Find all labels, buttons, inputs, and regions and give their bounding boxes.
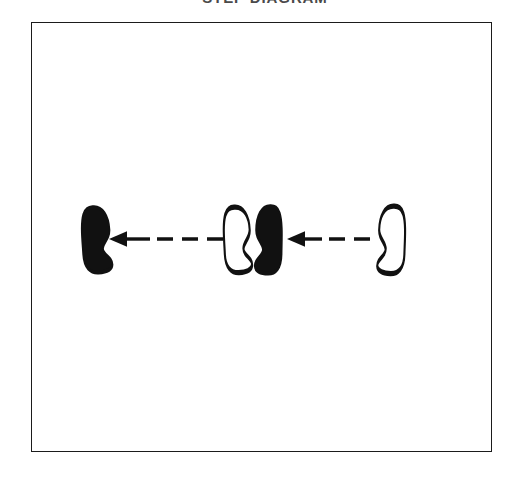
diagram-frame: [31, 22, 492, 452]
figure-page: STEP DIAGRAM: [0, 0, 530, 488]
page-title: STEP DIAGRAM: [0, 0, 530, 6]
